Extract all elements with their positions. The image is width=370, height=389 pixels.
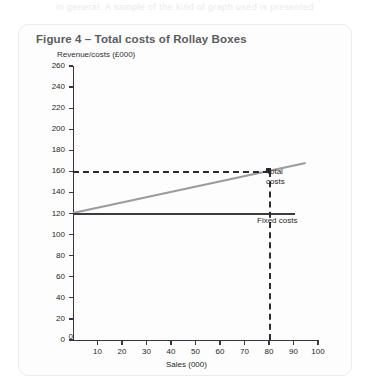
y-tick: [69, 129, 73, 130]
y-tick: [69, 276, 73, 277]
x-axis-title: Sales (000): [166, 360, 207, 369]
x-tick: [268, 341, 269, 345]
x-tick-label: 20: [110, 347, 134, 356]
y-tick-label: 40: [41, 293, 65, 302]
x-tick: [244, 341, 245, 345]
y-tick: [69, 297, 73, 298]
x-tick-label: 30: [135, 347, 159, 356]
x-tick-label: 0: [49, 332, 73, 341]
y-tick: [69, 86, 73, 87]
x-tick-label: 70: [233, 347, 257, 356]
series-label-fixed-costs: Fixed costs: [257, 216, 297, 225]
y-tick: [69, 192, 73, 193]
series-line-fixed-costs: [73, 213, 295, 215]
x-tick: [97, 341, 98, 345]
x-tick-label: 100: [306, 347, 330, 356]
series-label-total-costs: Total costs: [266, 167, 285, 187]
series-label-total-costs-line2: costs: [266, 177, 285, 187]
breakeven-vertical-guide: [269, 171, 271, 340]
breakeven-horizontal-guide: [73, 171, 269, 173]
x-tick: [121, 341, 122, 345]
y-tick: [69, 65, 73, 66]
y-tick-label: 120: [41, 209, 65, 218]
x-tick: [293, 341, 294, 345]
y-axis-line: [73, 66, 74, 341]
x-tick-label: 80: [257, 347, 281, 356]
y-tick-label: 180: [41, 145, 65, 154]
x-tick-label: 10: [86, 347, 110, 356]
y-tick-label: 60: [41, 272, 65, 281]
x-tick: [317, 341, 318, 345]
x-tick-label: 50: [184, 347, 208, 356]
series-label-total-costs-line1: Total: [266, 167, 285, 177]
y-tick-label: 80: [41, 251, 65, 260]
x-tick: [195, 341, 196, 345]
y-tick: [69, 108, 73, 109]
y-tick-label: 160: [41, 166, 65, 175]
x-tick-label: 90: [282, 347, 306, 356]
x-tick: [170, 341, 171, 345]
y-tick-label: 20: [41, 314, 65, 323]
chart-plot-area: 020406080100120140160180200220240260 010…: [0, 0, 370, 389]
y-tick: [69, 234, 73, 235]
x-tick: [146, 341, 147, 345]
x-tick: [219, 341, 220, 345]
y-tick-label: 200: [41, 124, 65, 133]
y-tick-label: 260: [41, 61, 65, 70]
y-tick-label: 220: [41, 103, 65, 112]
y-tick-label: 240: [41, 82, 65, 91]
y-tick: [69, 150, 73, 151]
x-tick-label: 40: [159, 347, 183, 356]
x-tick-label: 60: [208, 347, 232, 356]
y-tick-label: 100: [41, 230, 65, 239]
y-tick: [69, 255, 73, 256]
y-tick-label: 140: [41, 187, 65, 196]
y-tick: [69, 318, 73, 319]
